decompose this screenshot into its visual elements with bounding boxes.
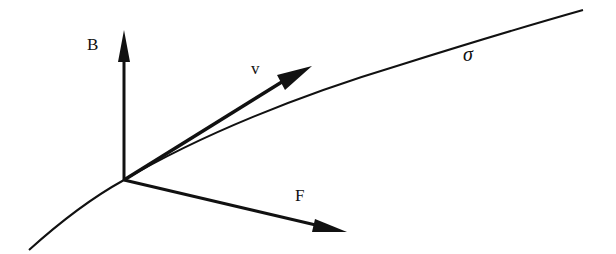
curve-sigma: [29, 10, 583, 250]
label-sigma: σ: [463, 44, 473, 64]
vector-v-arrow: [124, 66, 312, 180]
vector-b-arrow: [118, 30, 130, 180]
label-v: v: [251, 60, 260, 77]
label-f: F: [295, 187, 304, 204]
diagram-canvas: B v σ F: [0, 0, 616, 254]
label-b: B: [87, 36, 98, 53]
vector-f-arrow: [124, 180, 347, 232]
